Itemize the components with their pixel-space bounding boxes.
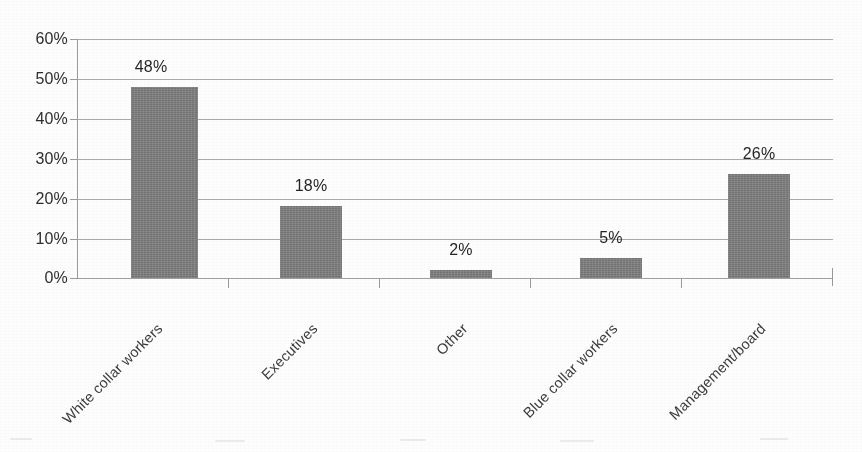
bar-white-collar-workers: [131, 87, 198, 278]
y-axis-tick-label: 40%: [18, 110, 68, 128]
y-axis-tick-label: 60%: [18, 30, 68, 48]
bar-other: [430, 270, 492, 278]
gridline-50: [77, 79, 833, 80]
gridline-0-baseline: [77, 278, 833, 279]
y-axis-tick-label: 50%: [18, 70, 68, 88]
y-axis-tick-label: 20%: [18, 190, 68, 208]
scan-artifact: [215, 440, 245, 442]
x-axis-category-label-white-collar-workers: White collar workers: [0, 320, 166, 452]
bar-executives: [280, 206, 342, 278]
x-axis-tick-mark: [228, 279, 229, 288]
x-axis-tick-mark: [379, 279, 380, 288]
bar-value-label-blue-collar-workers: 5%: [571, 229, 651, 247]
scan-artifact: [10, 438, 32, 440]
scan-artifact: [560, 440, 594, 442]
y-axis-tick-label: 0%: [18, 269, 68, 287]
scan-artifact: [760, 438, 788, 440]
gridline-60: [77, 39, 833, 40]
scan-artifact: [400, 439, 426, 441]
bar-chart: 60% 50% 40% 30% 20% 10% 0% 48% 18% 2% 5%…: [0, 0, 862, 452]
y-axis-tick-label: 10%: [18, 230, 68, 248]
bar-blue-collar-workers: [580, 258, 642, 278]
y-axis-tick-label: 30%: [18, 150, 68, 168]
bar-value-label-white-collar-workers: 48%: [111, 58, 191, 76]
bar-value-label-management-board: 26%: [719, 145, 799, 163]
bar-management-board: [728, 174, 790, 278]
x-axis-tick-mark: [681, 279, 682, 288]
bar-value-label-other: 2%: [421, 241, 501, 259]
x-axis-tick-mark: [530, 279, 531, 288]
bar-value-label-executives: 18%: [271, 177, 351, 195]
